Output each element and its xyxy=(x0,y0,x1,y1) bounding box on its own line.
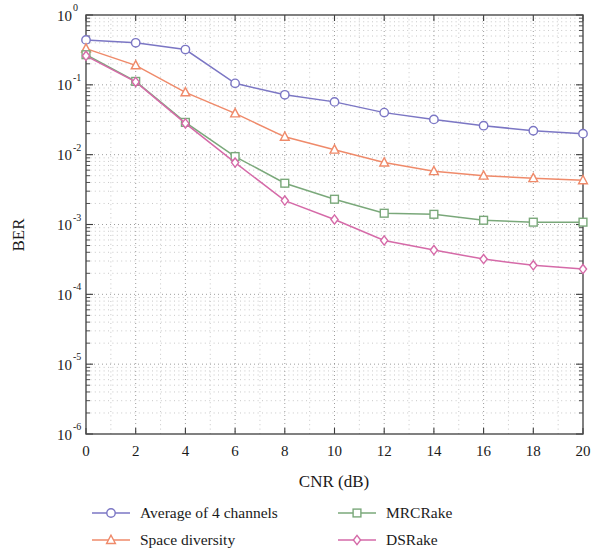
data-point-marker xyxy=(430,115,438,123)
data-point-marker xyxy=(353,535,360,544)
data-point-marker xyxy=(181,88,190,96)
x-tick-label: 0 xyxy=(82,443,90,459)
svg-text:10: 10 xyxy=(57,217,72,233)
x-tick-label: 8 xyxy=(281,443,289,459)
svg-text:-3: -3 xyxy=(73,212,81,223)
series-space-diversity xyxy=(82,44,588,184)
data-point-marker xyxy=(331,195,339,203)
x-tick-label: 12 xyxy=(377,443,392,459)
svg-text:10: 10 xyxy=(57,287,72,303)
y-tick-label: 10-4 xyxy=(57,281,81,303)
data-point-marker xyxy=(529,218,537,226)
data-point-marker xyxy=(330,98,338,106)
y-tick-label: 10-2 xyxy=(57,142,81,164)
svg-text:-6: -6 xyxy=(73,421,81,432)
data-point-marker xyxy=(107,509,115,517)
legend-entry-dsrake[interactable]: DSRake xyxy=(338,531,438,548)
svg-text:10: 10 xyxy=(57,357,72,373)
legend-label: DSRake xyxy=(386,531,438,548)
x-tick-label: 18 xyxy=(526,443,541,459)
legend-entry-mrcrake[interactable]: MRCRake xyxy=(338,504,452,521)
legend-label: Space diversity xyxy=(140,531,235,548)
legend-entry-average-of-4-channels[interactable]: Average of 4 channels xyxy=(92,504,278,521)
data-point-marker xyxy=(281,196,288,205)
data-point-marker xyxy=(530,261,537,270)
x-tick-label: 6 xyxy=(231,443,239,459)
svg-text:-5: -5 xyxy=(73,351,81,362)
data-point-marker xyxy=(529,127,537,135)
data-point-marker xyxy=(430,210,438,218)
legend-label: MRCRake xyxy=(386,504,452,521)
data-point-marker xyxy=(331,215,338,224)
data-point-marker xyxy=(132,39,140,47)
y-tick-label: 10-6 xyxy=(57,421,81,443)
data-point-marker xyxy=(353,509,361,517)
legend-entry-space-diversity[interactable]: Space diversity xyxy=(92,531,235,548)
svg-text:-1: -1 xyxy=(73,72,81,83)
svg-text:-4: -4 xyxy=(73,281,81,292)
svg-text:10: 10 xyxy=(57,77,72,93)
legend-label: Average of 4 channels xyxy=(140,504,278,521)
figure-container: 02468101214161820 10010-110-210-310-410-… xyxy=(0,0,592,554)
svg-text:10: 10 xyxy=(57,147,72,163)
svg-text:10: 10 xyxy=(57,8,72,24)
data-point-marker xyxy=(281,91,289,99)
x-axis-title: CNR (dB) xyxy=(299,472,369,491)
ber-vs-cnr-chart: 02468101214161820 10010-110-210-310-410-… xyxy=(0,0,592,554)
data-point-marker xyxy=(579,264,586,273)
data-point-marker xyxy=(579,129,587,137)
x-axis-tick-labels: 02468101214161820 xyxy=(82,443,590,459)
data-point-marker xyxy=(380,209,388,217)
data-point-marker xyxy=(181,45,189,53)
x-tick-label: 16 xyxy=(476,443,492,459)
svg-text:0: 0 xyxy=(73,2,78,13)
svg-text:10: 10 xyxy=(57,427,72,443)
x-tick-label: 10 xyxy=(327,443,342,459)
data-point-marker xyxy=(479,121,487,129)
y-axis-title: BER xyxy=(9,218,28,252)
data-point-marker xyxy=(380,108,388,116)
y-tick-label: 10-1 xyxy=(57,72,81,94)
x-tick-label: 20 xyxy=(576,443,591,459)
chart-legend: Average of 4 channelsMRCRakeSpace divers… xyxy=(92,504,452,548)
data-point-marker xyxy=(281,179,289,187)
y-axis-tick-labels: 10010-110-210-310-410-510-6 xyxy=(57,2,81,443)
y-tick-label: 10-3 xyxy=(57,212,81,234)
data-point-marker xyxy=(381,236,388,245)
data-point-marker xyxy=(480,254,487,263)
data-point-marker xyxy=(579,218,587,226)
data-point-marker xyxy=(430,245,437,254)
x-tick-label: 4 xyxy=(182,443,190,459)
data-point-marker xyxy=(231,79,239,87)
y-tick-label: 100 xyxy=(57,2,78,24)
svg-text:-2: -2 xyxy=(73,142,81,153)
x-tick-label: 2 xyxy=(132,443,140,459)
data-point-marker xyxy=(480,216,488,224)
y-tick-label: 10-5 xyxy=(57,351,81,373)
x-tick-label: 14 xyxy=(426,443,442,459)
